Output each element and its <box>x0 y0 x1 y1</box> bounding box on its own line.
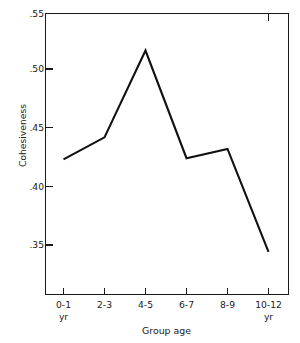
x-tick-label-1: 2-3 <box>85 299 125 310</box>
y-tick-label-4: .35 <box>20 239 44 250</box>
x-tick-label-3: 6-7 <box>167 299 207 310</box>
y-axis-title: Cohesiveness <box>17 86 28 186</box>
x-tick-label-4: 8-9 <box>208 299 248 310</box>
cohesiveness-line <box>64 51 269 252</box>
x-tick-unit-0: yr <box>44 311 84 322</box>
y-tick-label-1: .50 <box>20 63 44 74</box>
x-tick-label-0: 0-1 <box>44 299 84 310</box>
x-tick-unit-5: yr <box>249 311 289 322</box>
y-tick-label-0: .55 <box>20 8 44 19</box>
chart-figure: .55 .50 .45 .40 .35 Cohesiveness 0-1 2-3… <box>0 0 300 343</box>
y-tick-marks <box>46 14 53 246</box>
x-tick-label-5: 10-12 <box>249 299 289 310</box>
plot-frame <box>46 14 289 295</box>
line-chart-svg <box>0 0 300 343</box>
x-tick-marks <box>64 288 269 295</box>
x-tick-label-2: 4-5 <box>126 299 166 310</box>
x-axis-title: Group age <box>45 325 288 336</box>
